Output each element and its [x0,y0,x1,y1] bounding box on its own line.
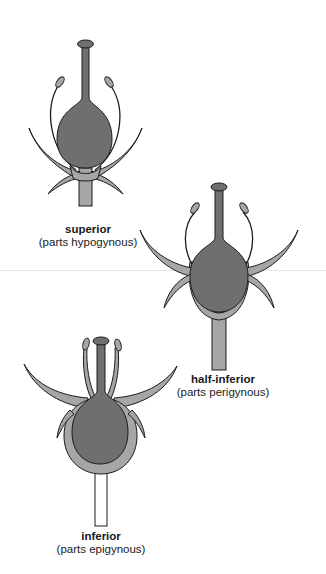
stamen-filament-right [243,212,253,266]
label-title: inferior [48,530,154,543]
anther-left [54,75,66,88]
label-title: half-inferior [170,373,276,386]
label-inferior: inferior (parts epigynous) [48,530,154,556]
stamen-filament-left [83,348,96,400]
label-superior: superior (parts hypogynous) [35,223,141,249]
anther-left [189,201,201,214]
ovary-and-style [57,47,112,168]
ovary-position-diagram: .ov { fill:#6f6f6f; stroke:#1c1c1c; stro… [0,0,326,574]
stigma [93,337,109,345]
label-subtitle: (parts perigynous) [170,386,276,399]
sepal-right [114,366,177,408]
sepal-left [140,230,192,276]
label-subtitle: (parts hypogynous) [35,236,141,249]
stigma [78,40,94,48]
pedicel [212,312,226,370]
petal-right-low [246,274,274,308]
stamen-filament-left [185,212,195,266]
stamen-filament-right [106,348,119,400]
anther-right [103,75,115,88]
sepal-right [246,230,298,276]
flower-inferior [24,337,177,526]
label-subtitle: (parts epigynous) [48,543,154,556]
sepal-left [24,364,88,408]
petal-left-low [164,274,192,308]
pedicel [95,470,107,526]
anther-right [238,201,250,214]
flower-half-inferior [140,183,298,370]
label-title: superior [35,223,141,236]
flower-superior [29,40,142,206]
label-half-inferior: half-inferior (parts perigynous) [170,373,276,399]
anther-left [82,337,91,350]
stigma [211,183,227,191]
